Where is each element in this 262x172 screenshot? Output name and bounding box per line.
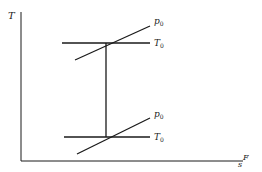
y-axis-label: T [8,10,16,21]
x-axis-label: s [238,160,242,169]
t-s-diagram: T s F p0 T0 p0 T0 [0,0,262,172]
x-axis-superscript: F [242,153,249,162]
upper-isotherm-label: T0 [154,38,164,49]
lower-isotherm-label: T0 [154,132,164,143]
lower-isobar-line [77,118,150,154]
upper-isobar-label: p0 [154,16,164,27]
lower-isobar-label: p0 [154,109,164,120]
